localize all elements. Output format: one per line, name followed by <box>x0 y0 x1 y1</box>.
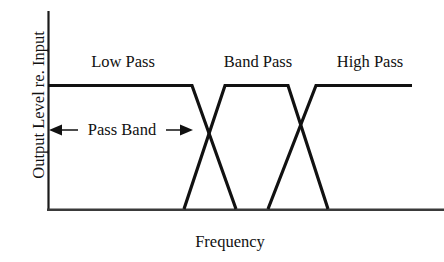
band-pass-label: Band Pass <box>203 51 313 73</box>
y-axis-title: Output Level re. Input <box>26 5 52 205</box>
high-pass-label: High Pass <box>315 51 425 73</box>
pass-band-label: Pass Band <box>78 119 166 141</box>
filter-response-plot <box>0 0 444 262</box>
low-pass-label: Low Pass <box>68 51 178 73</box>
filter-response-figure: Output Level re. Input Frequency Low Pas… <box>0 0 444 262</box>
x-axis-title: Frequency <box>150 231 310 253</box>
high-pass-curve <box>268 86 412 210</box>
low-pass-curve <box>48 86 236 210</box>
band-pass-curve <box>184 86 328 210</box>
